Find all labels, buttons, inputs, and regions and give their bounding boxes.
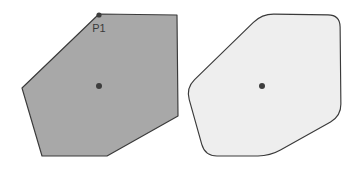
left-hexagon-center-marker bbox=[96, 83, 102, 89]
p1-vertex-marker bbox=[96, 12, 101, 17]
right-hexagon-center-marker bbox=[259, 83, 265, 89]
geometry-diagram: P1 bbox=[0, 0, 358, 173]
p1-vertex-label: P1 bbox=[92, 22, 105, 34]
figure-canvas: P1 bbox=[0, 0, 358, 173]
